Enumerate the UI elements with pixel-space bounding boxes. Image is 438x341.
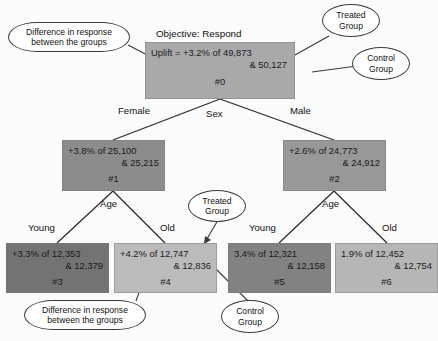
callout-difference-top: Difference in response between the group… bbox=[8, 22, 130, 52]
split-label-root-sex: Sex bbox=[206, 108, 223, 119]
leader-control-top bbox=[312, 66, 357, 72]
node-2-control-line: & 24,912 bbox=[289, 157, 380, 169]
tree-node-5[interactable]: 3.4% of 12,321 & 12,158 #5 bbox=[228, 243, 331, 293]
edge-label-left-young: Young bbox=[28, 222, 55, 233]
callout-treated-top: Treated Group bbox=[322, 4, 380, 37]
edge-label-female: Female bbox=[118, 105, 150, 116]
callout-treated-mid: Treated Group bbox=[188, 190, 246, 222]
edge-label-male: Male bbox=[290, 105, 311, 116]
callout-difference-bottom-line1: Difference in response bbox=[39, 305, 131, 315]
node-4-uplift-line: +4.2% of 12,747 bbox=[120, 248, 211, 260]
callout-control-bottom: Control Group bbox=[221, 300, 279, 333]
callout-difference-bottom-line2: between the groups bbox=[39, 315, 131, 325]
node-0-uplift-line: Uplift = +3.2% of 49,873 bbox=[151, 47, 289, 59]
callout-control-bottom-line2: Group bbox=[233, 317, 267, 327]
node-3-id: #3 bbox=[12, 276, 103, 288]
node-0-control-line: & 50,127 bbox=[151, 59, 289, 71]
edge-n2-to-n6 bbox=[334, 191, 387, 243]
callout-treated-mid-line2: Group bbox=[199, 206, 234, 216]
tree-node-1[interactable]: +3.8% of 25,100 & 25,215 #1 bbox=[62, 140, 165, 191]
tree-node-2[interactable]: +2.6% of 24,773 & 24,912 #2 bbox=[283, 140, 386, 191]
node-1-uplift-line: +3.8% of 25,100 bbox=[68, 145, 159, 157]
callout-difference-top-line2: between the groups bbox=[23, 37, 115, 47]
edge-label-right-young: Young bbox=[249, 222, 276, 233]
node-3-control-line: & 12,379 bbox=[12, 260, 103, 272]
edge-n1-to-n4 bbox=[113, 191, 165, 243]
tree-node-4[interactable]: +4.2% of 12,747 & 12,836 #4 bbox=[114, 243, 217, 293]
edge-label-right-old: Old bbox=[382, 222, 397, 233]
callout-treated-mid-line1: Treated bbox=[199, 196, 234, 206]
node-5-uplift-line: 3.4% of 12,321 bbox=[234, 248, 325, 260]
callout-treated-top-line1: Treated bbox=[333, 10, 368, 20]
callout-treated-top-line2: Group bbox=[333, 21, 368, 31]
split-label-right-age: Age bbox=[322, 198, 339, 209]
leader-treated-mid bbox=[204, 220, 218, 244]
callout-control-bottom-line1: Control bbox=[233, 306, 267, 316]
node-2-id: #2 bbox=[289, 173, 380, 185]
node-1-id: #1 bbox=[68, 173, 159, 185]
objective-title: Objective: Respond bbox=[156, 28, 242, 39]
node-4-control-line: & 12,836 bbox=[120, 260, 211, 272]
edge-label-left-old: Old bbox=[160, 222, 175, 233]
edge-root-to-n2 bbox=[220, 99, 334, 140]
callout-control-top-line2: Group bbox=[364, 64, 398, 74]
node-0-id: #0 bbox=[151, 76, 289, 88]
node-5-control-line: & 12,158 bbox=[234, 260, 325, 272]
node-3-uplift-line: +3.3% of 12,353 bbox=[12, 248, 103, 260]
tree-node-6[interactable]: 1.9% of 12,452 & 12,754 #6 bbox=[335, 243, 438, 293]
tree-node-0[interactable]: Uplift = +3.2% of 49,873 & 50,127 #0 bbox=[145, 42, 295, 99]
node-1-control-line: & 25,215 bbox=[68, 157, 159, 169]
node-6-uplift-line: 1.9% of 12,452 bbox=[341, 248, 432, 260]
node-6-control-line: & 12,754 bbox=[341, 260, 432, 272]
split-label-left-age: Age bbox=[100, 198, 117, 209]
callout-control-top-line1: Control bbox=[364, 53, 398, 63]
node-4-id: #4 bbox=[120, 276, 211, 288]
uplift-tree-diagram: Objective: Respond Uplift = +3.2% of 49,… bbox=[0, 0, 438, 341]
callout-difference-bottom: Difference in response between the group… bbox=[24, 300, 146, 330]
tree-node-3[interactable]: +3.3% of 12,353 & 12,379 #3 bbox=[6, 243, 109, 293]
callout-difference-top-line1: Difference in response bbox=[23, 27, 115, 37]
node-5-id: #5 bbox=[234, 276, 325, 288]
node-6-id: #6 bbox=[341, 276, 432, 288]
node-2-uplift-line: +2.6% of 24,773 bbox=[289, 145, 380, 157]
callout-control-top: Control Group bbox=[352, 47, 410, 80]
